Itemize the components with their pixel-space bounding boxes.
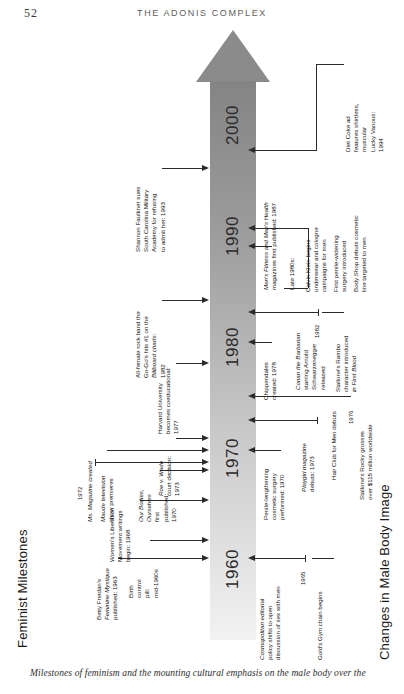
tick-ms-magazine (95, 459, 96, 466)
connector-rambo (322, 312, 344, 313)
event-playgirl: Playgirl magazine debuts: 1973 (300, 443, 316, 492)
arrowhead-playgirl (248, 417, 255, 423)
right-axis-title: Changes in Male Body Image (378, 484, 391, 660)
event-body-shop: Body Shop debuts cosmetic line targeted … (352, 215, 368, 292)
event-year-hair-club: 1976 (348, 411, 356, 424)
event-golds-gym: Gold's Gym chain begins (316, 591, 324, 660)
late-1980s-heading: Late 1980s: (288, 258, 296, 290)
bracket-diet-coke (316, 64, 317, 151)
event-conan: Conan the Barbarian starring Arnold Schw… (294, 333, 327, 390)
figure-caption: Milestones of feminism and the mounting … (30, 668, 390, 678)
event-maude: Maude television show premieres (99, 476, 115, 522)
arrowhead-cosmopolitan (248, 555, 255, 561)
connector-conan (255, 312, 318, 313)
connector-go-gos (162, 300, 203, 301)
arrowhead-mens-fitness (248, 243, 255, 249)
arrowhead-ms-magazine (202, 459, 209, 465)
arrowhead-late-1980s (248, 225, 255, 231)
event-birth-control-pill: Birth control pill: mid-1960s (127, 569, 160, 598)
event-go-gos: All-female rock band the Go-Go's hits #1… (134, 311, 167, 378)
event-betty-friedan: Betty Friedan's Feminine Mystique publis… (95, 568, 120, 620)
connector-ms-magazine (95, 462, 203, 463)
arrowhead-penile-lengthening (248, 447, 255, 453)
decade-label-2000: 2000 (210, 102, 256, 148)
arrowhead-conan (248, 309, 255, 315)
connector-birth-control-pill (150, 540, 203, 541)
arrowhead-our-bodies-ourselves (202, 467, 209, 473)
running-head: THE ADONIS COMPLEX (0, 8, 404, 18)
arrowhead-birth-control-pill (202, 537, 209, 543)
event-rocky: Stallone's Rocky grosses over $115 milli… (358, 424, 374, 500)
event-year-conan: 1982 (314, 325, 322, 338)
event-year-cosmopolitan: 1965 (300, 572, 308, 585)
event-cosmopolitan: Cosmopolitan editorial policy shifts to … (258, 586, 283, 660)
arrowhead-betty-friedan (202, 555, 209, 561)
arrowhead-go-gos (202, 297, 209, 303)
event-penile-lengthening: Penile-lengthening cosmetic surgery perf… (262, 469, 287, 520)
event-year-ms-magazine: 1972 (77, 487, 85, 500)
connector-diet-coke-top (316, 64, 344, 65)
decade-label-1970: 1970 (210, 435, 256, 481)
arrowhead-roe-v-wade (202, 435, 209, 441)
tick-playgirl (317, 417, 318, 424)
arrowhead-maude (202, 447, 209, 453)
event-rambo: Stallone's Rambo character introduced in… (334, 336, 359, 392)
connector-harvard (176, 363, 203, 364)
arrowhead-shannon-faulkner (202, 165, 209, 171)
connector-playgirl (255, 420, 317, 421)
tick-cosmopolitan-year (305, 555, 306, 562)
arrowhead-chippendales (248, 339, 255, 345)
arrowhead-diet-coke (248, 147, 255, 153)
arrow-head-icon (196, 30, 270, 82)
event-ms-magazine: Ms. Magazine created (86, 461, 94, 522)
arrowhead-harvard (202, 360, 209, 366)
decade-label-1990: 1990 (210, 213, 256, 259)
event-chippendales: Chippendales created: 1978 (262, 362, 278, 400)
event-shannon-faulkner: Shannon Faulkner sues South Carolina Mil… (134, 187, 167, 252)
connector-golds-gym (312, 558, 334, 559)
event-hair-club: Hair Club for Men debuts (330, 411, 338, 480)
timeline-figure-page: 52 THE ADONIS COMPLEX Feminist Milestone… (0, 0, 404, 694)
left-axis-title: Feminist Milestones (16, 529, 29, 648)
connector-diet-coke (255, 150, 316, 151)
tick-conan-year (318, 309, 319, 316)
decade-label-1980: 1980 (210, 324, 256, 370)
event-diet-coke: Diet Coke ad features shirtless, muscula… (344, 104, 385, 153)
timeline-arrow: 2000 1990 1980 1970 1960 (196, 30, 270, 640)
event-calvin-klein: Calvin Klein begins underwear and cologn… (304, 227, 329, 292)
event-penile-widening: First penile-widening surgery introduced (332, 235, 348, 292)
decade-label-1960: 1960 (210, 546, 256, 592)
event-mens-fitness: Men's Fitness and Men's Health magazines… (262, 202, 278, 290)
connector-penile-lengthening (255, 450, 281, 451)
connector-maude (107, 450, 203, 451)
connector-cosmopolitan (255, 558, 305, 559)
arrowhead-womens-liberation (202, 497, 209, 503)
arrowhead-hair-club (248, 393, 255, 399)
connector-chippendales (255, 342, 272, 343)
connector-roe-v-wade (176, 438, 203, 439)
event-roe-v-wade: Roe v. Wade court decision: 1973 (157, 456, 182, 496)
connector-shannon-faulkner (162, 168, 203, 169)
